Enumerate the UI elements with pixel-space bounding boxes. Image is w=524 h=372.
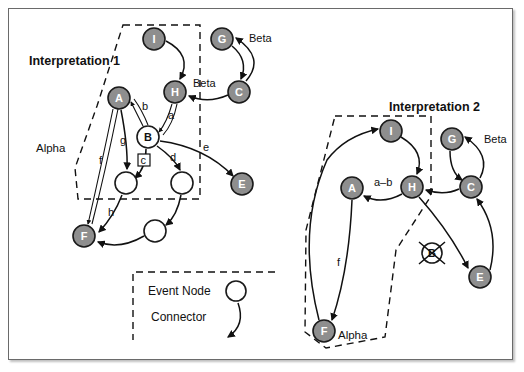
- edge-label-a-1: a: [168, 109, 175, 121]
- legend-event-node-symbol: [226, 281, 246, 301]
- node-e-2-label: E: [476, 271, 483, 283]
- node-a-1-label: A: [115, 92, 123, 104]
- diagram-canvas: I H G C A B E F Interpretation 1 Alpha: [0, 0, 524, 372]
- edge-h-to-a-ab-2: [364, 194, 402, 200]
- edge-label-ab-2: a–b: [374, 176, 392, 188]
- node-i-1-label: I: [152, 33, 155, 45]
- edge-i-to-h: [166, 41, 184, 79]
- diagram-root: I H G C A B E F Interpretation 1 Alpha: [0, 0, 524, 372]
- legend-label-event-node: Event Node: [148, 284, 211, 298]
- edge-label-d-1: d: [170, 151, 176, 163]
- node-h-2-label: H: [408, 181, 416, 193]
- edge-g-to-c-2: [450, 151, 462, 180]
- legend-label-connector: Connector: [151, 310, 206, 324]
- edge-g-to-c: [232, 46, 244, 79]
- node-g-1-label: G: [218, 33, 227, 45]
- edge-label-g-1: g: [120, 134, 126, 146]
- interpretation-2-group: I H G C A B E F Interpretation 2 Alpha a…: [305, 100, 508, 348]
- interpretation-2-alpha-label: Alpha: [338, 329, 368, 341]
- edge-node3-to-f: [98, 236, 144, 245]
- edge-label-e-1: e: [203, 141, 209, 153]
- node-b-1-label: B: [144, 131, 152, 143]
- node-c-1-label: C: [235, 86, 243, 98]
- edge-i-to-h-2: [401, 137, 419, 174]
- node-f-2-label: F: [321, 325, 328, 337]
- event-node-3[interactable]: [144, 220, 166, 242]
- edge-label-beta-2: Beta: [484, 133, 508, 145]
- edge-label-beta-mid-1: Beta: [193, 77, 217, 89]
- edge-label-b-1: b: [142, 100, 148, 112]
- node-c-2-label: C: [467, 181, 475, 193]
- legend-group: Event Node Connector: [133, 272, 275, 340]
- edge-c-to-g-beta: [236, 38, 254, 81]
- interpretation-2-alpha-region: [305, 116, 431, 348]
- interpretation-1-alpha-label: Alpha: [36, 142, 66, 154]
- event-node-2[interactable]: [171, 172, 193, 194]
- edge-label-f-2: f: [337, 256, 341, 268]
- edge-label-beta-top-1: Beta: [249, 32, 273, 44]
- edge-e-to-c-2: [477, 199, 493, 270]
- node-i-2-label: I: [389, 125, 392, 137]
- edge-a-to-f-f-2: [332, 200, 352, 320]
- edge-c-to-g-beta-2: [465, 137, 484, 178]
- node-e-1-label: E: [238, 178, 245, 190]
- legend-connector-symbol: [228, 303, 240, 337]
- edge-c-to-h-beta: [189, 95, 228, 100]
- node-a-2-label: A: [348, 182, 356, 194]
- node-f-1-label: F: [81, 230, 88, 242]
- event-node-1[interactable]: [115, 172, 137, 194]
- edge-b-to-node2-d: [157, 146, 180, 170]
- edge-label-c-1: c: [141, 154, 147, 166]
- edge-label-h-1: h: [108, 206, 114, 218]
- node-g-2-label: G: [448, 133, 457, 145]
- interpretation-2-title: Interpretation 2: [389, 100, 480, 114]
- node-h-1-label: H: [171, 86, 179, 98]
- legend-border: [133, 272, 275, 340]
- edge-f-to-i-2: [309, 129, 378, 320]
- interpretation-1-title: Interpretation 1: [29, 54, 120, 68]
- interpretation-1-group: I H G C A B E F Interpretation 1 Alpha: [29, 25, 273, 247]
